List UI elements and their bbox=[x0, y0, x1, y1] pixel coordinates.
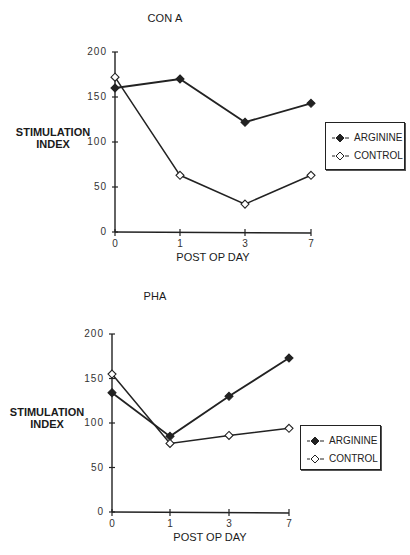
open-diamond-marker bbox=[176, 171, 184, 179]
y-tick-label: 150 bbox=[77, 91, 107, 102]
x-tick-label: 0 bbox=[105, 238, 125, 249]
series-line-arginine bbox=[115, 79, 311, 122]
series-line-control bbox=[115, 77, 311, 204]
open-diamond-marker bbox=[225, 431, 233, 439]
legend-item-arginine: ARGININE bbox=[326, 131, 404, 145]
y-tick-label: 0 bbox=[77, 226, 107, 237]
y-tick-label: 50 bbox=[74, 462, 104, 473]
legend-label: ARGININE bbox=[329, 435, 377, 446]
x-tick-label: 0 bbox=[102, 518, 122, 529]
chart-pha: PHA STIMULATION INDEX POST OP DAY ARGINI… bbox=[0, 278, 410, 555]
y-tick-label: 200 bbox=[77, 46, 107, 57]
legend: ARGININE CONTROL bbox=[300, 425, 381, 470]
series-line-control bbox=[112, 374, 289, 443]
legend-item-control: CONTROL bbox=[326, 149, 404, 163]
x-tick-label: 3 bbox=[235, 238, 255, 249]
series-line-arginine bbox=[112, 358, 289, 436]
y-tick-label: 0 bbox=[74, 506, 104, 517]
open-diamond-marker bbox=[241, 200, 249, 208]
open-diamond-marker bbox=[111, 73, 119, 81]
filled-diamond-marker bbox=[307, 99, 315, 107]
legend-label: ARGININE bbox=[354, 132, 402, 143]
filled-diamond-icon bbox=[330, 131, 352, 145]
x-tick-label: 1 bbox=[170, 238, 190, 249]
open-diamond-marker bbox=[285, 424, 293, 432]
x-tick-label: 1 bbox=[160, 518, 180, 529]
open-diamond-icon bbox=[330, 149, 352, 163]
open-diamond-icon bbox=[305, 452, 327, 466]
legend-item-control: CONTROL bbox=[301, 452, 380, 466]
x-tick-label: 7 bbox=[301, 238, 321, 249]
x-tick-label: 7 bbox=[279, 518, 299, 529]
legend: ARGININE CONTROL bbox=[325, 122, 405, 170]
y-tick-label: 50 bbox=[77, 181, 107, 192]
plot-area bbox=[0, 278, 410, 555]
open-diamond-marker bbox=[307, 171, 315, 179]
y-tick-label: 100 bbox=[77, 136, 107, 147]
y-tick-label: 100 bbox=[74, 417, 104, 428]
filled-diamond-icon bbox=[305, 434, 327, 448]
y-tick-label: 200 bbox=[74, 328, 104, 339]
legend-item-arginine: ARGININE bbox=[301, 434, 380, 448]
filled-diamond-marker bbox=[111, 84, 119, 92]
y-tick-label: 150 bbox=[74, 373, 104, 384]
legend-label: CONTROL bbox=[354, 150, 403, 161]
chart-con-a: CON A STIMULATION INDEX POST OP DAY ARGI… bbox=[0, 0, 410, 278]
x-tick-label: 3 bbox=[219, 518, 239, 529]
legend-label: CONTROL bbox=[329, 453, 378, 464]
